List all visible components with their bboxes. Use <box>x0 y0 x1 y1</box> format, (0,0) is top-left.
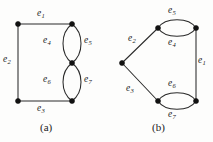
figure-container: e1e2e3e4e5e6e7(a)e2e3e5e4e1e6e7(b) <box>0 0 213 142</box>
panel-b-caption: (b) <box>152 122 165 133</box>
vertex-b-top-right <box>194 26 199 31</box>
panel-b-edge-e4-label: e4 <box>168 38 176 48</box>
panel-b-edge-e6-label: e6 <box>168 79 176 89</box>
panel-b-edge-e5-label: e5 <box>168 6 176 16</box>
panel-b-edge-e4-subscript: 4 <box>172 41 175 48</box>
panel-a-edge-e5-subscript: 5 <box>88 39 91 46</box>
panel-b-edge-e2-subscript: 2 <box>132 37 135 44</box>
panel-a-edge-e7-subscript: 7 <box>88 78 91 85</box>
panel-a-edge-e3-label: e3 <box>37 104 45 114</box>
vertex-a-bottom-right <box>70 99 75 104</box>
panel-a-edge-e4-subscript: 4 <box>47 39 50 46</box>
panel-b-edge-e7-subscript: 7 <box>172 113 175 120</box>
panel-a-edge-e6-subscript: 6 <box>47 78 50 85</box>
panel-a-edge-e6-label: e6 <box>43 75 51 85</box>
panel-b-edge-e3 <box>122 63 158 101</box>
vertices-layer <box>16 22 199 104</box>
panel-a-edge-e1-label: e1 <box>37 9 45 19</box>
panel-a-caption: (a) <box>40 122 52 133</box>
panel-a-edge-e1-subscript: 1 <box>41 12 44 19</box>
vertex-b-top-left <box>156 26 161 31</box>
vertex-a-top-left <box>16 22 21 27</box>
vertex-b-bottom-right <box>194 99 199 104</box>
panel-b-edge-e3-label: e3 <box>126 84 134 94</box>
panel-a-edge-e5 <box>72 24 81 63</box>
panel-a-edge-e7 <box>72 63 81 101</box>
vertex-a-bottom-left <box>16 99 21 104</box>
panel-b-edge-e2-label: e2 <box>128 34 136 44</box>
vertex-a-middle-right <box>70 61 75 66</box>
vertex-a-top-right <box>70 22 75 27</box>
panel-a-edge-e4-label: e4 <box>43 36 51 46</box>
panel-b-edge-e4 <box>158 28 196 36</box>
panel-b-edge-e7 <box>158 101 196 109</box>
panel-a-edge-e3-subscript: 3 <box>41 107 44 114</box>
panel-b-edge-e1-subscript: 1 <box>202 59 205 66</box>
vertex-b-bottom-left <box>156 99 161 104</box>
graph-canvas <box>0 0 213 142</box>
panel-b-edge-e1-label: e1 <box>198 56 206 66</box>
panel-a-edge-e5-label: e5 <box>84 36 92 46</box>
edges-layer <box>18 20 196 110</box>
vertex-b-left <box>120 61 125 66</box>
panel-a-edge-e4 <box>63 24 72 63</box>
panel-a-edge-e2-subscript: 2 <box>7 58 10 65</box>
panel-a-edge-e7-label: e7 <box>84 75 92 85</box>
panel-b-edge-e7-label: e7 <box>168 110 176 120</box>
panel-b-edge-e6 <box>158 93 196 101</box>
panel-a-edge-e6 <box>63 63 72 101</box>
panel-b-edge-e3-subscript: 3 <box>130 87 133 94</box>
panel-a-edge-e2-label: e2 <box>3 55 11 65</box>
panel-b-edge-e5 <box>158 20 196 28</box>
panel-b-edge-e6-subscript: 6 <box>172 82 175 89</box>
panel-b-edge-e5-subscript: 5 <box>172 9 175 16</box>
